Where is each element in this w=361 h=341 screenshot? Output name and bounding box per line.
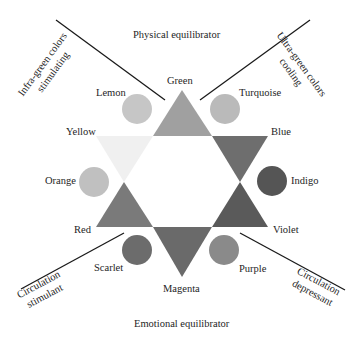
label-orange: Orange <box>45 176 76 187</box>
label-yellow: Yellow <box>66 127 96 138</box>
circle-lemon <box>122 94 152 124</box>
label-turquoise: Turquoise <box>239 88 281 99</box>
triangle-magenta <box>153 227 212 277</box>
circle-indigo <box>257 166 287 196</box>
label-blue: Blue <box>271 127 291 138</box>
label-purple: Purple <box>239 264 266 275</box>
label-red: Red <box>74 225 91 236</box>
label-scarlet: Scarlet <box>94 263 123 274</box>
label-magenta: Magenta <box>163 284 200 295</box>
label-lemon: Lemon <box>96 88 126 99</box>
label-green: Green <box>167 76 193 87</box>
title-emotional-equilibrator: Emotional equilibrator <box>134 319 229 330</box>
label-violet: Violet <box>273 225 299 236</box>
circle-turquoise <box>210 94 240 124</box>
circle-scarlet <box>122 235 152 265</box>
label-indigo: Indigo <box>291 176 318 187</box>
title-physical-equilibrator: Physical equilibrator <box>133 30 220 41</box>
circle-purple <box>209 235 239 265</box>
circle-orange <box>79 167 109 197</box>
